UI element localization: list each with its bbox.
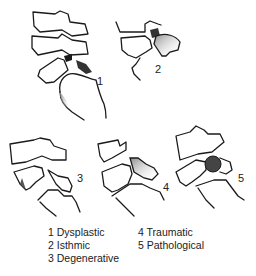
panel-4-traumatic-drawing (98, 140, 164, 216)
panel-3-number: 3 (77, 173, 83, 184)
panel-2-isthmic-drawing (116, 21, 180, 80)
panel-1-dysplastic-drawing (32, 11, 106, 120)
panel-5-pathological-drawing (176, 126, 244, 208)
panel-2-number: 2 (155, 64, 161, 75)
panel-1-number: 1 (97, 76, 103, 87)
legend: 1 Dysplastic 2 Isthmic 3 Degenerative 4 … (48, 227, 248, 271)
panel-5-number: 5 (238, 173, 244, 184)
legend-item-isthmic: 2 Isthmic (48, 240, 90, 251)
legend-item-degenerative: 3 Degenerative (48, 253, 119, 264)
panel-4-number: 4 (163, 182, 169, 193)
legend-item-dysplastic: 1 Dysplastic (48, 227, 105, 238)
legend-item-traumatic: 4 Traumatic (138, 227, 193, 238)
panel-3-degenerative-drawing (10, 138, 80, 216)
legend-item-pathological: 5 Pathological (138, 240, 204, 251)
